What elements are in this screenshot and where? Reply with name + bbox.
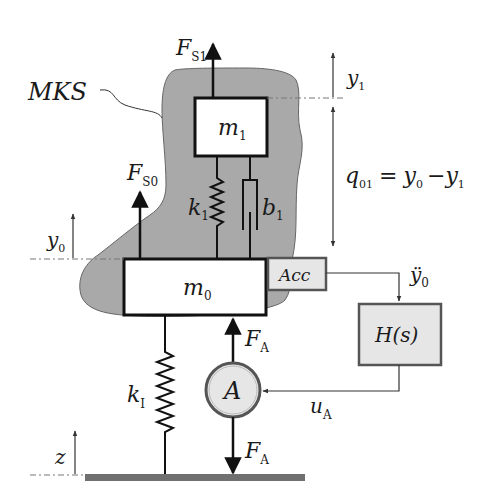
actuator-label: A xyxy=(222,377,241,405)
ua-label: uA xyxy=(310,394,332,422)
y1-label: y1 xyxy=(346,66,365,93)
q01-equation: q01=y0−y1 xyxy=(345,163,465,191)
acc-signal-label: ÿ0 xyxy=(409,263,429,290)
fs0-label: FS0 xyxy=(126,160,158,189)
mks-label: MKS xyxy=(27,78,87,106)
fs1-label: FS1 xyxy=(175,35,207,64)
z-label: z xyxy=(54,445,66,469)
acc-label: Acc xyxy=(277,265,311,285)
spring-ki xyxy=(157,315,173,475)
ground xyxy=(85,474,305,481)
fa-down-label: FA xyxy=(244,438,269,467)
mks-diagram: MKS FS1 m1 k1 b1 FS0 m0 Acc ÿ0 H(s) uA F… xyxy=(0,0,486,500)
ki-label: kI xyxy=(127,382,145,411)
mks-pointer-line xyxy=(100,90,162,118)
controller-label: H(s) xyxy=(374,323,418,347)
fa-up-label: FA xyxy=(244,326,269,355)
signal-acc-to-controller xyxy=(326,273,399,301)
signal-controller-to-actuator xyxy=(263,365,399,391)
y0-label: y0 xyxy=(46,228,65,255)
